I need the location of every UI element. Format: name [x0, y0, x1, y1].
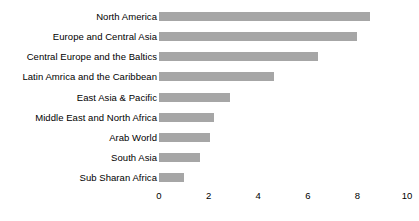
- x-tick-label: 6: [305, 190, 310, 202]
- x-tick-label: 10: [402, 190, 413, 202]
- bar-track: [159, 147, 407, 167]
- chart-row: Middle East and North Africa: [0, 107, 419, 127]
- category-label: Latin Amrica and the Caribbean: [7, 71, 157, 82]
- chart-row: South Asia: [0, 147, 419, 167]
- category-label: Sub Sharan Africa: [7, 172, 157, 183]
- bar: [159, 12, 370, 21]
- chart-row: North America: [0, 6, 419, 26]
- bar-track: [159, 26, 407, 46]
- bar-track: [159, 87, 407, 107]
- category-label: South Asia: [7, 152, 157, 163]
- x-axis: 0 2 4 6 8 10: [0, 190, 419, 204]
- bar: [159, 133, 210, 142]
- bar: [159, 93, 230, 102]
- category-label: Arab World: [7, 132, 157, 143]
- bar-track: [159, 127, 407, 147]
- bar-track: [159, 6, 407, 26]
- bar-track: [159, 46, 407, 66]
- bar: [159, 72, 274, 81]
- chart-row: Sub Sharan Africa: [0, 167, 419, 187]
- bar-track: [159, 66, 407, 86]
- category-label: Middle East and North Africa: [7, 112, 157, 123]
- bar: [159, 32, 357, 41]
- x-tick-label: 8: [355, 190, 360, 202]
- x-tick-label: 0: [156, 190, 161, 202]
- bar: [159, 173, 184, 182]
- chart-row: Arab World: [0, 127, 419, 147]
- chart-row: Europe and Central Asia: [0, 26, 419, 46]
- bar-chart: North America Europe and Central Asia Ce…: [0, 0, 419, 221]
- bar-track: [159, 167, 407, 187]
- bar-track: [159, 107, 407, 127]
- bar: [159, 153, 200, 162]
- category-label: Central Europe and the Baltics: [7, 51, 157, 62]
- category-label: Europe and Central Asia: [7, 31, 157, 42]
- bar: [159, 113, 214, 122]
- plot-area: North America Europe and Central Asia Ce…: [0, 0, 419, 221]
- x-tick-label: 4: [256, 190, 261, 202]
- chart-row: Central Europe and the Baltics: [0, 46, 419, 66]
- category-label: East Asia & Pacific: [7, 92, 157, 103]
- chart-row: Latin Amrica and the Caribbean: [0, 66, 419, 86]
- x-tick-label: 2: [206, 190, 211, 202]
- bar: [159, 52, 318, 61]
- category-label: North America: [7, 11, 157, 22]
- chart-row: East Asia & Pacific: [0, 87, 419, 107]
